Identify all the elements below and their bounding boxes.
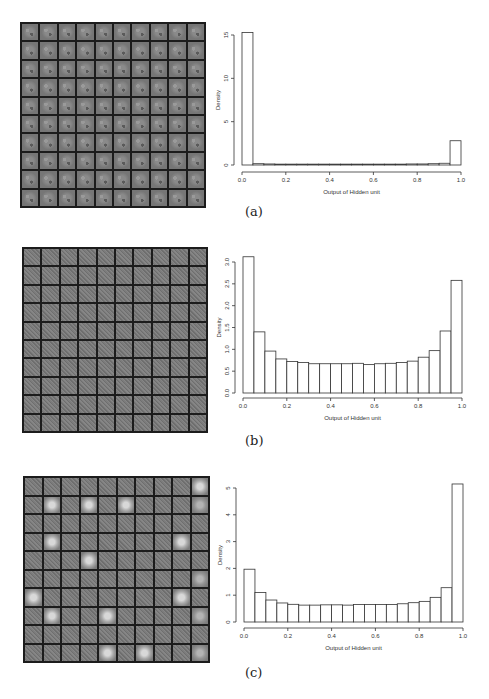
histogram-bar bbox=[288, 604, 299, 622]
x-axis-label: Output of Hidden unit bbox=[325, 645, 382, 651]
histogram-bar bbox=[452, 484, 463, 622]
x-tick-label: 0.6 bbox=[371, 633, 380, 639]
y-tick-label: 0 bbox=[225, 620, 231, 624]
histogram-bar bbox=[343, 605, 354, 622]
histogram-bar bbox=[310, 605, 321, 622]
y-tick-label: 5 bbox=[225, 486, 231, 490]
histogram-bar bbox=[321, 605, 332, 622]
y-tick-label: 4 bbox=[225, 512, 231, 516]
histogram-bar bbox=[244, 569, 255, 622]
histogram-bar bbox=[397, 604, 408, 622]
histogram-bar bbox=[386, 605, 397, 622]
x-tick-label: 1.0 bbox=[459, 633, 468, 639]
x-tick-label: 0.8 bbox=[415, 633, 424, 639]
histogram-bar bbox=[299, 605, 310, 622]
histogram-bar bbox=[375, 605, 386, 622]
y-tick-label: 3 bbox=[225, 539, 231, 543]
histogram-bar bbox=[364, 605, 375, 622]
y-tick-label: 1 bbox=[225, 593, 231, 597]
histogram-bar bbox=[419, 601, 430, 622]
histogram-bar bbox=[441, 588, 452, 622]
histogram-bar bbox=[332, 605, 343, 622]
histogram-bar bbox=[277, 603, 288, 622]
y-axis-label: Density bbox=[217, 545, 223, 565]
y-tick-label: 2 bbox=[225, 566, 231, 570]
histogram-bar bbox=[354, 605, 365, 622]
histogram-bar bbox=[266, 600, 277, 622]
histogram-bar bbox=[430, 597, 441, 622]
x-tick-label: 0.0 bbox=[240, 633, 249, 639]
caption-c: (c) bbox=[245, 665, 262, 680]
x-tick-label: 0.2 bbox=[284, 633, 293, 639]
histogram-bar bbox=[408, 603, 419, 622]
x-tick-label: 0.4 bbox=[327, 633, 336, 639]
histogram-bar bbox=[255, 593, 266, 622]
